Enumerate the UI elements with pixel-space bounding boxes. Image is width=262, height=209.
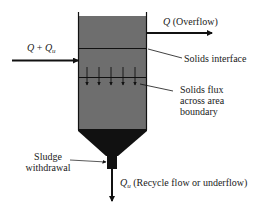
- sludge-leader-line: [70, 160, 106, 162]
- inflow-label: Q + Qu: [27, 42, 56, 57]
- plus-sign: +: [34, 42, 45, 53]
- solids-flux-line-3: boundary: [180, 106, 224, 117]
- sludge-withdrawal-label: Sludge withdrawal: [24, 151, 72, 173]
- solids-interface-label: Solids interface: [184, 53, 246, 64]
- underflow-label: Qu (Recycle flow or underflow): [120, 177, 247, 192]
- sludge-hopper: [78, 129, 147, 169]
- sludge-line-2: withdrawal: [24, 162, 72, 173]
- clarifier-diagram: Q + Qu Q (Overflow) Solids interface Sol…: [0, 0, 262, 209]
- overflow-text: (Overflow): [170, 16, 217, 27]
- tank-body: [79, 12, 147, 130]
- underflow-text: (Recycle flow or underflow): [131, 177, 248, 188]
- inflow-subscript: u: [52, 47, 56, 55]
- overflow-label: Q (Overflow): [163, 16, 218, 27]
- sludge-line-1: Sludge: [24, 151, 72, 162]
- solids-flux-label: Solids flux across area boundary: [180, 84, 224, 117]
- solids-flux-line-1: Solids flux: [180, 84, 224, 95]
- solids-flux-line-2: across area: [180, 95, 224, 106]
- interface-leader-line: [148, 49, 182, 58]
